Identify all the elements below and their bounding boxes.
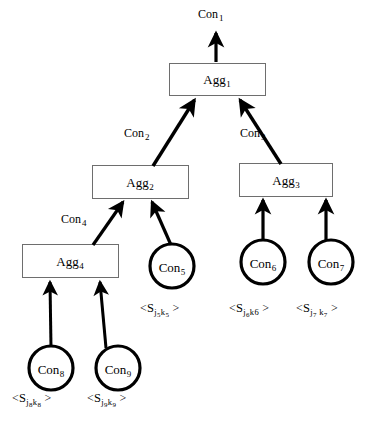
con8-text: Con [38,362,60,377]
sensor8-jn: 8 [29,401,33,409]
con9-sub: 9 [126,369,131,379]
con6-text: Con [250,256,272,271]
edge-con3-sub: 3 [260,132,266,142]
sensor-label-con7: <Sj7 k7 > [296,302,338,315]
edge-label-con2: Con2 [124,127,150,139]
sensor7-jn: 7 [313,311,317,319]
agg2-text: Agg [126,175,148,190]
aggregator-label-agg4: Agg4 [56,255,83,268]
arrow-con9-to-agg4 [100,282,106,348]
edge-label-con3: Con3 [240,127,266,139]
edge-con1-sub: 1 [218,13,224,23]
aggregator-label-agg1: Agg1 [203,73,230,86]
sensor-label-con5: <Sj5k5 > [140,302,180,315]
consumer-label-con9: Con9 [105,363,132,376]
sensor-label-con8: <Sj8k8 > [12,392,52,405]
con7-text: Con [318,256,340,271]
edge-con4-text: Con [61,212,81,226]
agg4-text: Agg [56,254,78,269]
arrow-agg2-to-agg1 [153,100,195,166]
sensor9-kn: 9 [112,401,116,409]
arrow-con5-to-agg2 [152,202,171,245]
aggregator-label-agg2: Agg2 [126,176,153,189]
edge-con1-text: Con [198,7,218,21]
consumer-label-con5: Con5 [159,261,186,274]
sensor6-jn: 6 [246,311,250,319]
arrow-agg4-to-agg2 [93,202,123,245]
consumer-label-con8: Con8 [38,363,65,376]
sensor9-jn: 9 [104,401,108,409]
agg2-sub: 2 [149,182,154,192]
consumer-label-con6: Con6 [250,257,277,270]
sensor6-kn: 6 [254,307,259,317]
agg3-text: Agg [272,173,294,188]
sensor7-close: > [331,301,338,315]
sensor5-kn: 5 [165,311,169,319]
sensor-label-con9: <Sj9k9 > [87,392,127,405]
con5-sub: 5 [180,267,185,277]
sensor6-close: > [262,301,269,315]
edge-label-con4: Con4 [61,213,87,225]
con7-sub: 7 [339,263,344,273]
con6-sub: 6 [271,263,276,273]
diagram-canvas: Agg1 Agg2 Agg3 Agg4 Con5 Con6 Con7 Con8 … [0,0,375,427]
edge-con2-text: Con [124,126,144,140]
edge-con3-text: Con [240,126,260,140]
con8-sub: 8 [59,369,64,379]
agg4-sub: 4 [79,261,84,271]
consumer-label-con7: Con7 [318,257,345,270]
edge-con2-sub: 2 [144,132,150,142]
edge-con4-sub: 4 [81,218,87,228]
con5-text: Con [159,260,181,275]
sensor8-close: > [45,391,52,405]
sensor9-close: > [120,391,127,405]
agg1-text: Agg [203,72,225,87]
sensor5-jn: 5 [157,311,161,319]
sensor-label-con6: <Sj6k6 > [229,302,269,315]
arrow-con8-to-agg4 [50,282,51,348]
agg1-sub: 1 [226,79,231,89]
con9-text: Con [105,362,127,377]
sensor5-close: > [173,301,180,315]
agg3-sub: 3 [295,180,300,190]
sensor8-kn: 8 [37,401,41,409]
aggregator-label-agg3: Agg3 [272,174,299,187]
edge-label-con1: Con1 [198,8,224,20]
sensor7-kn: 7 [324,311,328,319]
